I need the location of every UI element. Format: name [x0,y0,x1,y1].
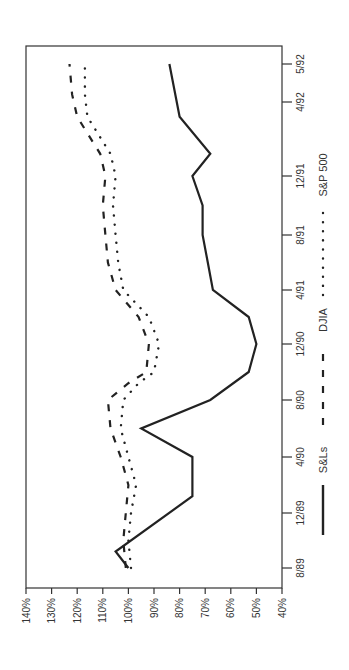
percent-tick-label: 50% [251,598,262,618]
percent-tick-label: 80% [174,598,185,618]
date-tick-label: 4/90 [295,447,306,467]
date-tick-label: 8/90 [295,390,306,410]
percent-tick-label: 70% [200,598,211,618]
date-tick-label: 4/92 [295,92,306,112]
legend-label: S&Ls [317,446,329,473]
series-layer [70,64,257,568]
chart-container: 140%130%120%110%100%90%80%70%60%50%40% 8… [0,0,349,670]
series-djia [70,64,149,568]
percent-axis: 140%130%120%110%100%90%80%70%60%50%40% [21,588,288,624]
percent-tick-label: 100% [123,598,134,624]
date-tick-label: 12/89 [295,500,306,525]
date-tick-label: 12/91 [295,163,306,188]
legend-label: S&P 500 [317,153,329,196]
percent-tick-label: 140% [21,598,32,624]
plot-frame [26,46,282,588]
line-chart: 140%130%120%110%100%90%80%70%60%50%40% 8… [0,0,349,670]
date-tick-label: 12/90 [295,331,306,356]
percent-tick-label: 130% [46,598,57,624]
date-tick-label: 8/89 [295,558,306,578]
date-tick-label: 8/91 [295,225,306,245]
percent-tick-label: 110% [97,598,108,623]
date-axis: 8/8912/894/908/9012/904/918/9112/914/925… [282,54,306,578]
date-tick-label: 5/92 [295,54,306,74]
date-tick-label: 4/91 [295,280,306,300]
legend-label: DJIA [317,307,329,332]
percent-tick-label: 90% [149,598,160,618]
series-s-p-500 [85,64,159,568]
percent-tick-label: 40% [277,598,288,618]
percent-tick-label: 60% [225,598,236,618]
legend: S&LsDJIAS&P 500 [317,153,329,535]
percent-tick-label: 120% [72,598,83,624]
